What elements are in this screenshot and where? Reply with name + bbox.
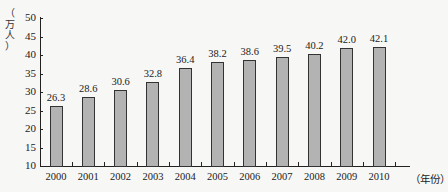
bar-value-label: 38.2 xyxy=(202,48,234,59)
x-tick-mark xyxy=(169,162,170,166)
bar-2007 xyxy=(276,57,289,167)
x-tick-mark xyxy=(234,162,235,166)
bar-2003 xyxy=(146,82,159,167)
bar-value-label: 26.3 xyxy=(40,92,72,103)
y-tick-label: 25 xyxy=(12,104,36,116)
x-tick-label: 2009 xyxy=(331,171,363,182)
x-tick-label: 2006 xyxy=(234,171,266,182)
y-tick-label: 45 xyxy=(12,30,36,42)
bar-value-label: 42.0 xyxy=(331,34,363,45)
x-tick-label: 2008 xyxy=(298,171,330,182)
bar-value-label: 39.5 xyxy=(266,43,298,54)
bar-value-label: 40.2 xyxy=(298,40,330,51)
bar-2000 xyxy=(50,106,63,167)
bar-2002 xyxy=(114,90,127,167)
bar-value-label: 28.6 xyxy=(72,83,104,94)
bar-value-label: 42.1 xyxy=(363,33,395,44)
x-axis-label: （年份） xyxy=(410,171,448,186)
x-tick-label: 2001 xyxy=(72,171,104,182)
x-tick-mark xyxy=(395,162,396,166)
x-tick-label: 2005 xyxy=(202,171,234,182)
x-axis xyxy=(40,166,410,167)
bar-value-label: 32.8 xyxy=(137,68,169,79)
bar-2005 xyxy=(211,62,224,167)
bar-2006 xyxy=(243,60,256,167)
bar-2004 xyxy=(179,68,192,167)
bar-2009 xyxy=(340,48,353,167)
x-tick-label: 2010 xyxy=(363,171,395,182)
x-tick-label: 2002 xyxy=(105,171,137,182)
y-tick-mark xyxy=(40,55,43,56)
x-tick-label: 2003 xyxy=(137,171,169,182)
x-tick-label: 2004 xyxy=(169,171,201,182)
y-tick-label: 15 xyxy=(12,141,36,153)
y-tick-label: 20 xyxy=(12,122,36,134)
y-tick-label: 30 xyxy=(12,85,36,97)
bar-value-label: 38.6 xyxy=(234,46,266,57)
y-tick-label: 10 xyxy=(12,159,36,171)
x-tick-label: 2000 xyxy=(40,171,72,182)
x-tick-mark xyxy=(104,162,105,166)
y-tick-mark xyxy=(40,18,43,19)
bar-value-label: 30.6 xyxy=(105,76,137,87)
x-tick-mark xyxy=(137,162,138,166)
bar-2001 xyxy=(82,97,95,167)
y-tick-mark xyxy=(40,129,43,130)
y-tick-mark xyxy=(40,37,43,38)
x-tick-mark xyxy=(363,162,364,166)
y-tick-mark xyxy=(40,111,43,112)
y-tick-mark xyxy=(40,74,43,75)
bar-value-label: 36.4 xyxy=(169,54,201,65)
bar-2008 xyxy=(308,54,321,167)
y-tick-label: 50 xyxy=(12,11,36,23)
x-tick-mark xyxy=(201,162,202,166)
y-tick-mark xyxy=(40,148,43,149)
y-tick-label: 35 xyxy=(12,67,36,79)
bar-2010 xyxy=(373,47,386,167)
y-tick-mark xyxy=(40,166,43,167)
x-tick-mark xyxy=(72,162,73,166)
x-tick-mark xyxy=(298,162,299,166)
x-tick-mark xyxy=(266,162,267,166)
x-tick-mark xyxy=(331,162,332,166)
y-tick-label: 40 xyxy=(12,48,36,60)
x-tick-label: 2007 xyxy=(266,171,298,182)
